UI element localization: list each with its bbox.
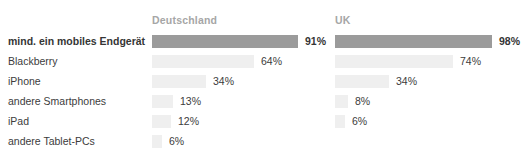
bar-value-uk: 6% xyxy=(352,115,367,127)
bar-value-deutschland: 6% xyxy=(169,135,184,147)
bar-deutschland xyxy=(152,115,171,128)
bar-deutschland xyxy=(152,75,206,88)
row-andere-smartphones: andere Smartphones 13% 8% xyxy=(0,91,530,111)
mobile-device-usage-chart: Deutschland UK mind. ein mobiles Endgerä… xyxy=(0,0,530,153)
row-label: mind. ein mobiles Endgerät xyxy=(0,35,152,47)
bar-value-uk: 34% xyxy=(396,75,417,87)
bar-deutschland xyxy=(152,135,162,148)
row-ipad: iPad 12% 6% xyxy=(0,111,530,131)
bar-uk xyxy=(335,55,453,68)
bar-value-uk: 74% xyxy=(460,55,481,67)
row-label: iPad xyxy=(0,115,152,127)
bar-deutschland xyxy=(152,35,298,48)
row-label: iPhone xyxy=(0,75,152,87)
bar-value-deutschland: 34% xyxy=(213,75,234,87)
bar-deutschland xyxy=(152,55,254,68)
bar-value-deutschland: 13% xyxy=(180,95,201,107)
bar-value-deutschland: 91% xyxy=(305,35,326,47)
bar-uk xyxy=(335,75,389,88)
column-header-uk: UK xyxy=(335,14,351,26)
bar-value-deutschland: 64% xyxy=(261,55,282,67)
row-blackberry: Blackberry 64% 74% xyxy=(0,51,530,71)
column-header-deutschland: Deutschland xyxy=(152,14,217,26)
row-andere-tablet-pcs: andere Tablet-PCs 6% xyxy=(0,131,530,151)
row-label: andere Smartphones xyxy=(0,95,152,107)
bar-uk xyxy=(335,35,492,48)
row-iphone: iPhone 34% 34% xyxy=(0,71,530,91)
bar-value-deutschland: 12% xyxy=(178,115,199,127)
bar-value-uk: 8% xyxy=(355,95,370,107)
bar-deutschland xyxy=(152,95,173,108)
bar-uk xyxy=(335,95,348,108)
row-label: andere Tablet-PCs xyxy=(0,135,152,147)
row-mind-ein-mobiles-endgeraet: mind. ein mobiles Endgerät 91% 98% xyxy=(0,31,530,51)
bar-uk xyxy=(335,115,345,128)
column-header-row: Deutschland UK xyxy=(0,9,530,31)
row-label: Blackberry xyxy=(0,55,152,67)
bar-value-uk: 98% xyxy=(499,35,520,47)
